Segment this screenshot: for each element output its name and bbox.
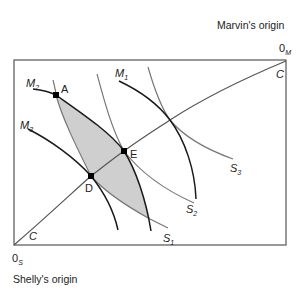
label-s1: S1 xyxy=(163,232,174,246)
point-e-label: E xyxy=(130,148,137,160)
shelly-origin-symbol: 0S xyxy=(12,252,23,266)
label-m1: M1 xyxy=(115,67,128,81)
label-s3: S3 xyxy=(230,162,241,176)
contract-curve-label-top: C xyxy=(276,68,284,80)
point-e-marker xyxy=(121,148,127,154)
label-s2: S2 xyxy=(186,203,197,217)
point-a-marker xyxy=(53,92,59,98)
marvin-origin-label: Marvin's origin xyxy=(217,19,285,31)
shelly-origin-label: Shelly's origin xyxy=(13,273,78,285)
point-d-label: D xyxy=(85,182,93,194)
shelly-curve-s3 xyxy=(148,67,233,159)
point-d-marker xyxy=(88,173,94,179)
edgeworth-box-diagram: A E D M2 M3 M1 S1 S2 S3 C C Marvin's ori… xyxy=(0,0,308,298)
label-m3: M3 xyxy=(20,119,33,133)
contract-curve-label-bottom: C xyxy=(29,230,37,242)
point-a-label: A xyxy=(61,83,69,95)
label-m2: M2 xyxy=(26,77,39,91)
marvin-origin-symbol: 0M xyxy=(279,42,291,56)
